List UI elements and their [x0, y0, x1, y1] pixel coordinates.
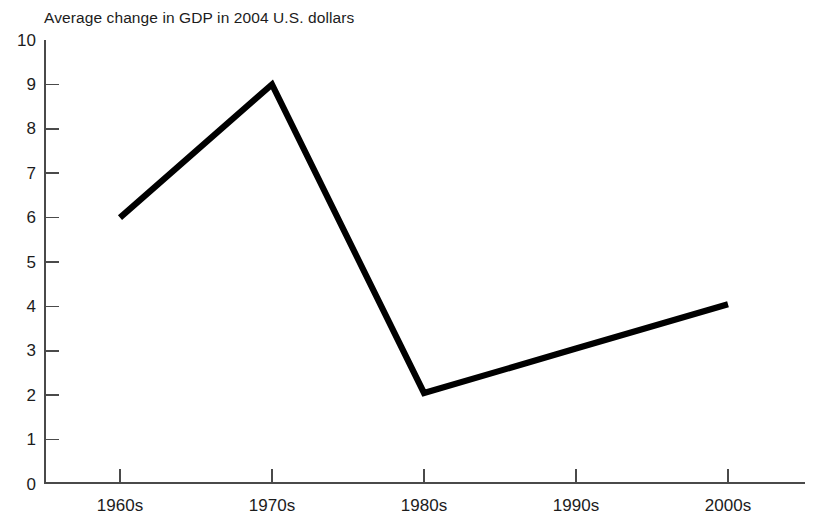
chart-figure: Average change in GDP in 2004 U.S. dolla… — [0, 0, 814, 531]
x-axis-tick-label: 1970s — [212, 497, 332, 514]
gdp-line-series — [120, 84, 728, 393]
data-layer — [44, 40, 805, 484]
plot-area: 012345678910 1960s1970s1980s1990s2000s — [44, 40, 805, 484]
y-axis-tick-label: 0 — [2, 476, 36, 493]
y-axis-tick-label: 1 — [2, 431, 36, 448]
x-axis-tick-label: 1980s — [364, 497, 484, 514]
chart-title: Average change in GDP in 2004 U.S. dolla… — [44, 8, 354, 28]
y-axis-tick-label: 4 — [2, 298, 36, 315]
y-axis-tick-label: 7 — [2, 165, 36, 182]
y-axis-tick-label: 6 — [2, 209, 36, 226]
y-axis-tick-label: 10 — [2, 32, 36, 49]
x-axis-tick-label: 2000s — [668, 497, 788, 514]
y-axis-tick-label: 5 — [2, 254, 36, 271]
x-axis-tick-label: 1990s — [516, 497, 636, 514]
y-axis-tick-label: 2 — [2, 387, 36, 404]
y-axis-tick-label: 8 — [2, 120, 36, 137]
x-axis-tick-label: 1960s — [60, 497, 180, 514]
y-axis-tick-label: 3 — [2, 342, 36, 359]
y-axis-tick-label: 9 — [2, 76, 36, 93]
